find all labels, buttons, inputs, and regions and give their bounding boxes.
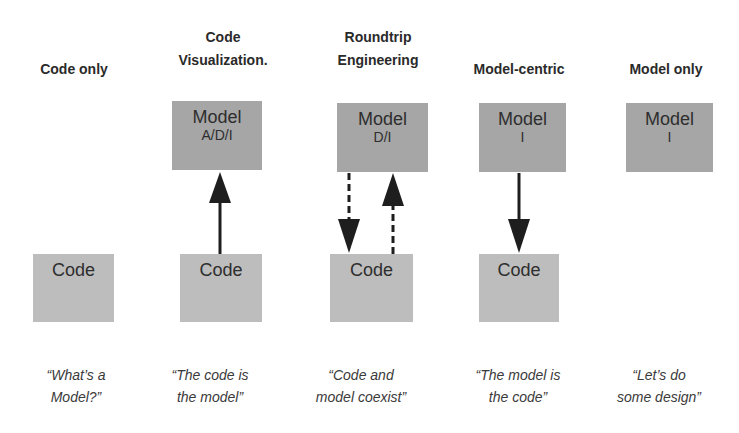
dashed-arrow-up-icon bbox=[382, 173, 404, 254]
quote-line: Model?” bbox=[47, 386, 106, 408]
quote-line: some design” bbox=[617, 386, 701, 408]
dashed-arrow-down-icon bbox=[338, 173, 360, 253]
quote-line: “What’s a bbox=[47, 364, 106, 386]
quote-line: “Let’s do bbox=[617, 364, 701, 386]
quote-line: model coexist” bbox=[316, 386, 406, 408]
quote-roundtrip: “Code and model coexist” bbox=[316, 364, 406, 408]
quote-code-visualization: “The code is the model” bbox=[171, 364, 248, 408]
quote-line: the code” bbox=[476, 386, 561, 408]
quote-model-centric: “The model is the code” bbox=[476, 364, 561, 408]
quote-line: “The code is bbox=[171, 364, 248, 386]
quote-line: “The model is bbox=[476, 364, 561, 386]
arrow-down-icon bbox=[508, 173, 530, 253]
arrow-up-icon bbox=[209, 172, 231, 254]
quote-line: “Code and bbox=[316, 364, 406, 386]
quote-line: the model” bbox=[171, 386, 248, 408]
quote-model-only: “Let’s do some design” bbox=[617, 364, 701, 408]
quote-code-only: “What’s a Model?” bbox=[47, 364, 106, 408]
